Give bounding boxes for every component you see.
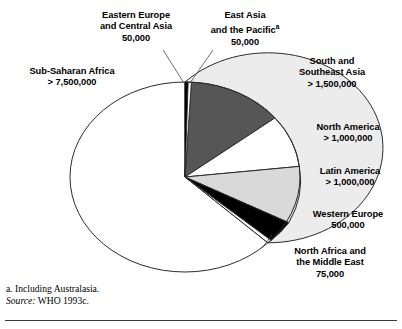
label-latin-america: Latin America > 1,000,000 (300, 166, 400, 189)
label-north-america: North America > 1,000,000 (296, 122, 400, 145)
label-value: > 1,000,000 (300, 177, 400, 188)
label-line: East Asia (190, 10, 300, 21)
source-label: Source: (6, 295, 35, 306)
label-value: > 7,500,000 (8, 77, 136, 88)
label-sub-saharan-africa: Sub-Saharan Africa > 7,500,000 (8, 66, 136, 89)
label-line: Southeast Asia (268, 67, 396, 78)
label-line: South and (268, 56, 396, 67)
label-line: and the Pacifica (190, 21, 300, 37)
label-north-africa-middle-east: North Africa and the Middle East 75,000 (267, 246, 393, 280)
source-note: Source: WHO 1993c. (6, 295, 89, 307)
label-line: North Africa and (267, 246, 393, 257)
label-line: and Central Asia (79, 21, 193, 32)
label-value: 75,000 (267, 269, 393, 280)
bottom-divider-rule (5, 320, 397, 321)
leader-line-eastern-europe (163, 50, 184, 83)
label-value: > 1,500,000 (268, 79, 396, 90)
label-western-europe: Western Europe 500,000 (296, 209, 400, 232)
label-value: 50,000 (190, 37, 300, 48)
label-value: 50,000 (79, 33, 193, 44)
label-south-southeast-asia: South and Southeast Asia > 1,500,000 (268, 56, 396, 90)
label-line: the Middle East (267, 257, 393, 268)
pie-chart-figure: Eastern Europe and Central Asia 50,000 E… (0, 0, 402, 329)
label-line: Sub-Saharan Africa (8, 66, 136, 77)
footnote-including-australasia: a. Including Australasia. (6, 283, 99, 295)
label-value: 500,000 (296, 220, 400, 231)
label-line: Eastern Europe (79, 10, 193, 21)
label-value: > 1,000,000 (296, 133, 400, 144)
label-line-text: and the Pacific (211, 26, 276, 36)
label-eastern-europe-central-asia: Eastern Europe and Central Asia 50,000 (79, 10, 193, 44)
source-text: WHO 1993c. (38, 295, 89, 306)
label-line: North America (296, 122, 400, 133)
footnote-marker: a (276, 23, 280, 30)
label-east-asia-pacific: East Asia and the Pacifica 50,000 (190, 10, 300, 48)
label-line: Latin America (300, 166, 400, 177)
label-line: Western Europe (296, 209, 400, 220)
